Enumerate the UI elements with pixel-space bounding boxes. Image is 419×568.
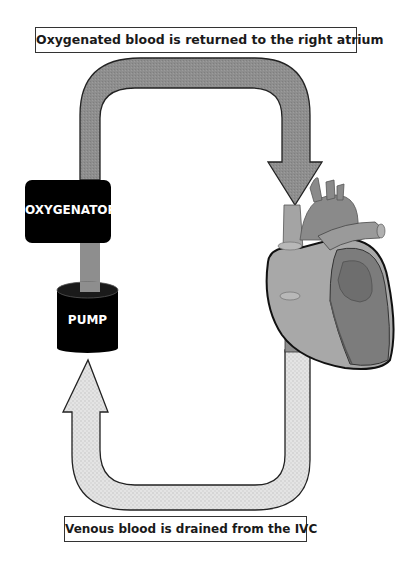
bypass-diagram-canvas xyxy=(0,0,419,568)
oxygenated-return-arrow xyxy=(80,58,322,205)
oxygenator-label: OXYGENATOR xyxy=(25,203,111,217)
heart-illustration xyxy=(267,178,394,369)
oxygenated-return-label: Oxygenated blood is returned to the righ… xyxy=(35,27,357,53)
venous-drainage-label: Venous blood is drained from the IVC xyxy=(64,516,307,542)
pump-oxygenator-tube xyxy=(80,243,100,288)
pump-label: PUMP xyxy=(57,313,118,327)
venous-drainage-arrow xyxy=(63,350,310,510)
